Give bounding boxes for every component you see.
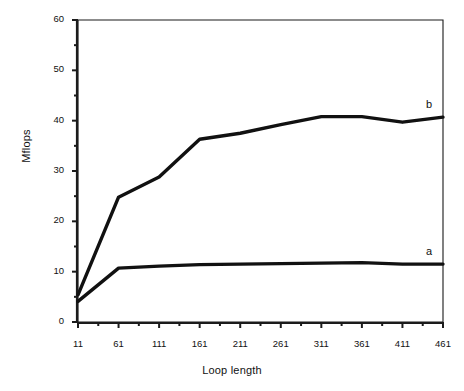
y-tick-label: 40 <box>36 114 64 125</box>
x-tick-label: 161 <box>185 338 215 349</box>
x-tick-label: 261 <box>266 338 296 349</box>
x-tick-label: 211 <box>225 338 255 349</box>
series-label-a: a <box>426 245 432 257</box>
y-tick-label: 0 <box>36 315 64 326</box>
plot-area <box>0 0 464 391</box>
x-tick-label: 411 <box>387 338 417 349</box>
y-tick-label: 60 <box>36 13 64 24</box>
y-tick-label: 20 <box>36 214 64 225</box>
axis-frame <box>77 20 443 323</box>
series-lines <box>78 117 443 302</box>
x-tick-label: 61 <box>104 338 134 349</box>
series-label-b: b <box>426 98 432 110</box>
y-axis-title: Mflops <box>20 101 32 191</box>
x-tick-label: 11 <box>63 338 93 349</box>
x-tick-label: 111 <box>144 338 174 349</box>
y-tick-label: 10 <box>36 265 64 276</box>
chart-figure: Mflops Loop length 0102030405060 1161111… <box>0 0 464 391</box>
x-tick-label: 461 <box>428 338 458 349</box>
x-axis-title: Loop length <box>0 364 464 376</box>
y-tick-label: 30 <box>36 164 64 175</box>
x-tick-label: 311 <box>306 338 336 349</box>
y-tick-label: 50 <box>36 63 64 74</box>
x-tick-label: 361 <box>347 338 377 349</box>
axis-ticks <box>72 20 443 328</box>
